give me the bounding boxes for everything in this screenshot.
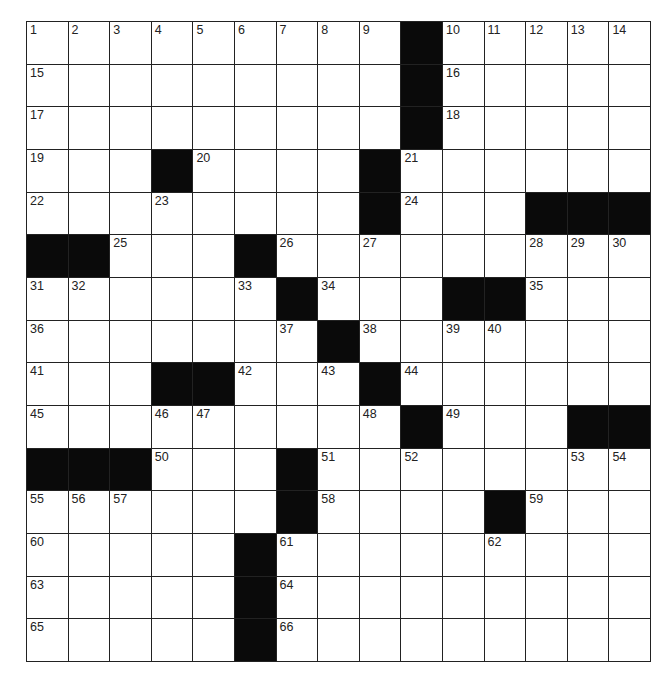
crossword-cell[interactable] [485,65,526,107]
crossword-cell[interactable] [526,406,567,448]
crossword-cell[interactable] [568,619,609,661]
crossword-cell[interactable]: 16 [443,65,484,107]
crossword-cell[interactable]: 58 [318,491,359,533]
crossword-cell[interactable] [443,491,484,533]
crossword-cell[interactable] [152,491,193,533]
crossword-cell[interactable] [485,449,526,491]
crossword-cell[interactable] [568,65,609,107]
crossword-cell[interactable] [318,65,359,107]
crossword-cell[interactable]: 5 [193,22,234,64]
crossword-cell[interactable] [152,65,193,107]
crossword-cell[interactable]: 10 [443,22,484,64]
crossword-cell[interactable] [485,193,526,235]
crossword-cell[interactable] [277,65,318,107]
crossword-cell[interactable]: 37 [277,321,318,363]
crossword-cell[interactable] [360,449,401,491]
crossword-cell[interactable]: 46 [152,406,193,448]
crossword-cell[interactable]: 21 [401,150,442,192]
crossword-cell[interactable] [360,278,401,320]
crossword-cell[interactable] [443,150,484,192]
crossword-cell[interactable] [526,449,567,491]
crossword-cell[interactable]: 57 [110,491,151,533]
crossword-cell[interactable] [485,363,526,405]
crossword-cell[interactable]: 56 [69,491,110,533]
crossword-cell[interactable] [193,577,234,619]
crossword-cell[interactable] [318,534,359,576]
crossword-cell[interactable] [609,278,650,320]
crossword-cell[interactable] [193,193,234,235]
crossword-cell[interactable] [193,491,234,533]
crossword-cell[interactable] [110,193,151,235]
crossword-cell[interactable] [443,363,484,405]
crossword-cell[interactable]: 28 [526,235,567,277]
crossword-cell[interactable] [401,235,442,277]
crossword-cell[interactable] [485,619,526,661]
crossword-cell[interactable] [609,65,650,107]
crossword-cell[interactable] [568,107,609,149]
crossword-cell[interactable] [401,534,442,576]
crossword-cell[interactable] [110,619,151,661]
crossword-cell[interactable]: 43 [318,363,359,405]
crossword-cell[interactable]: 38 [360,321,401,363]
crossword-cell[interactable] [609,619,650,661]
crossword-cell[interactable] [110,321,151,363]
crossword-cell[interactable]: 47 [193,406,234,448]
crossword-cell[interactable]: 52 [401,449,442,491]
crossword-cell[interactable] [318,235,359,277]
crossword-cell[interactable] [277,193,318,235]
crossword-cell[interactable]: 51 [318,449,359,491]
crossword-cell[interactable] [193,107,234,149]
crossword-cell[interactable]: 55 [27,491,68,533]
crossword-cell[interactable] [485,577,526,619]
crossword-cell[interactable] [609,363,650,405]
crossword-cell[interactable]: 12 [526,22,567,64]
crossword-cell[interactable] [401,577,442,619]
crossword-cell[interactable] [110,406,151,448]
crossword-cell[interactable]: 2 [69,22,110,64]
crossword-cell[interactable] [235,321,276,363]
crossword-cell[interactable] [69,363,110,405]
crossword-cell[interactable] [485,406,526,448]
crossword-cell[interactable] [526,321,567,363]
crossword-cell[interactable] [568,150,609,192]
crossword-cell[interactable] [235,449,276,491]
crossword-cell[interactable] [277,406,318,448]
crossword-cell[interactable]: 14 [609,22,650,64]
crossword-cell[interactable] [235,107,276,149]
crossword-cell[interactable] [193,235,234,277]
crossword-cell[interactable]: 7 [277,22,318,64]
crossword-cell[interactable] [318,406,359,448]
crossword-cell[interactable] [152,577,193,619]
crossword-cell[interactable]: 30 [609,235,650,277]
crossword-cell[interactable]: 20 [193,150,234,192]
crossword-cell[interactable]: 17 [27,107,68,149]
crossword-cell[interactable]: 62 [485,534,526,576]
crossword-cell[interactable] [110,150,151,192]
crossword-cell[interactable]: 49 [443,406,484,448]
crossword-cell[interactable]: 64 [277,577,318,619]
crossword-cell[interactable]: 33 [235,278,276,320]
crossword-cell[interactable] [318,150,359,192]
crossword-cell[interactable] [193,278,234,320]
crossword-cell[interactable] [401,278,442,320]
crossword-cell[interactable] [568,278,609,320]
crossword-cell[interactable]: 19 [27,150,68,192]
crossword-cell[interactable]: 18 [443,107,484,149]
crossword-cell[interactable] [443,193,484,235]
crossword-cell[interactable]: 24 [401,193,442,235]
crossword-cell[interactable] [360,107,401,149]
crossword-cell[interactable] [69,65,110,107]
crossword-cell[interactable] [69,406,110,448]
crossword-cell[interactable]: 34 [318,278,359,320]
crossword-cell[interactable] [360,619,401,661]
crossword-cell[interactable]: 40 [485,321,526,363]
crossword-cell[interactable]: 59 [526,491,567,533]
crossword-cell[interactable]: 8 [318,22,359,64]
crossword-cell[interactable]: 61 [277,534,318,576]
crossword-cell[interactable] [526,107,567,149]
crossword-cell[interactable] [485,150,526,192]
crossword-cell[interactable] [235,150,276,192]
crossword-cell[interactable] [110,65,151,107]
crossword-cell[interactable] [401,321,442,363]
crossword-cell[interactable] [609,577,650,619]
